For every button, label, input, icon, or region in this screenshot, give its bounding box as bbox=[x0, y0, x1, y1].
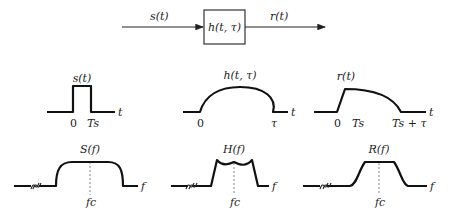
tick-label: Ts bbox=[87, 117, 100, 130]
plot-title: S(f) bbox=[80, 143, 100, 156]
freq-plot-output: R(f) f fc bbox=[303, 143, 436, 209]
channel-block-label: h(t, τ) bbox=[208, 21, 241, 34]
input-spectrum-curve bbox=[14, 162, 138, 186]
tick-label: 0 bbox=[197, 117, 204, 130]
freq-plot-input: S(f) f fc bbox=[14, 143, 147, 209]
time-plot-input: s(t) t 0 Ts bbox=[47, 72, 123, 130]
center-frequency-label: fc bbox=[85, 196, 96, 209]
tick-label: Ts bbox=[352, 117, 365, 130]
axis-label: t bbox=[429, 106, 434, 119]
rect-pulse-curve bbox=[47, 86, 115, 112]
center-frequency-label: fc bbox=[229, 196, 240, 209]
block-diagram: s(t) h(t, τ) r(t) bbox=[122, 10, 325, 44]
axis-label: f bbox=[140, 180, 147, 193]
axis-break-icon bbox=[320, 183, 331, 189]
plot-title: s(t) bbox=[73, 72, 92, 85]
axis-label: t bbox=[118, 106, 123, 119]
channel-response-curve bbox=[183, 87, 288, 112]
axis-break-icon bbox=[186, 183, 197, 189]
axis-label: f bbox=[429, 180, 436, 193]
channel-spectrum-curve bbox=[171, 160, 269, 186]
tick-label: Ts + τ bbox=[392, 117, 427, 130]
axis-label: t bbox=[291, 106, 296, 119]
center-frequency-label: fc bbox=[374, 196, 385, 209]
time-plot-channel: h(t, τ) t 0 τ bbox=[183, 69, 296, 130]
received-signal-curve bbox=[314, 89, 426, 112]
freq-plot-channel: H(f) f fc bbox=[171, 143, 278, 209]
axis-break-icon bbox=[31, 183, 41, 189]
tick-label: 0 bbox=[70, 117, 77, 130]
diagram-canvas: s(t) h(t, τ) r(t) s(t) t 0 Ts h(t, τ) t … bbox=[0, 0, 450, 217]
plot-title: R(f) bbox=[368, 143, 390, 156]
tick-label: τ bbox=[271, 117, 278, 130]
plot-title: h(t, τ) bbox=[223, 69, 256, 82]
output-signal-label: r(t) bbox=[270, 10, 288, 23]
tick-label: 0 bbox=[334, 117, 341, 130]
input-signal-label: s(t) bbox=[150, 10, 169, 23]
plot-title: r(t) bbox=[337, 70, 355, 83]
plot-title: H(f) bbox=[222, 143, 245, 156]
axis-label: f bbox=[271, 180, 278, 193]
output-spectrum-curve bbox=[303, 162, 427, 186]
time-plot-output: r(t) t 0 Ts Ts + τ bbox=[314, 70, 434, 130]
